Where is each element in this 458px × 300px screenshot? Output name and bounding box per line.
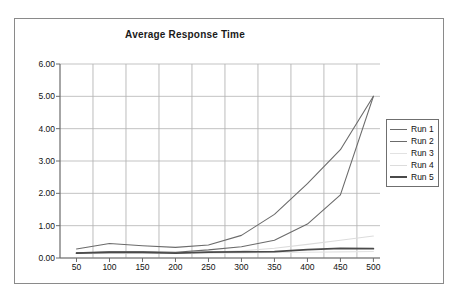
plot-area (60, 64, 380, 258)
legend-swatch-icon (390, 165, 407, 166)
x-axis-tick-label: 150 (127, 262, 157, 272)
legend-item[interactable]: Run 5 (390, 171, 434, 183)
y-axis-tick-label: 4.00 (25, 124, 55, 134)
y-axis-tick-label: 2.00 (25, 188, 55, 198)
x-axis-tick-label: 300 (226, 262, 256, 272)
legend-swatch-icon (390, 153, 407, 154)
legend-swatch-icon (390, 176, 407, 178)
y-axis-tick-label: 6.00 (25, 59, 55, 69)
legend-item-label: Run 3 (411, 147, 434, 159)
y-axis-tick-label: 0.00 (25, 253, 55, 263)
chart-title: Average Response Time (15, 29, 355, 40)
chart-legend: Run 1Run 2Run 3Run 4Run 5 (386, 119, 439, 187)
x-axis-tick-label: 100 (94, 262, 124, 272)
legend-item[interactable]: Run 3 (390, 147, 434, 159)
legend-swatch-icon (390, 141, 407, 142)
x-axis-tick-label: 250 (193, 262, 223, 272)
y-axis-tick-label: 1.00 (25, 221, 55, 231)
x-axis-tick-label: 450 (325, 262, 355, 272)
plot-svg (60, 64, 380, 258)
legend-item-label: Run 4 (411, 159, 434, 171)
legend-item-label: Run 2 (411, 135, 434, 147)
x-axis-tick-label: 200 (160, 262, 190, 272)
legend-item[interactable]: Run 2 (390, 135, 434, 147)
legend-item[interactable]: Run 1 (390, 123, 434, 135)
x-axis-tick-label: 350 (259, 262, 289, 272)
y-axis-tick-labels: 0.001.002.003.004.005.006.00 (22, 64, 55, 258)
y-axis-tick-label: 5.00 (25, 91, 55, 101)
legend-item-label: Run 5 (411, 171, 434, 183)
chart-frame: Average Response Time 0.001.002.003.004.… (14, 18, 444, 284)
legend-swatch-icon (390, 129, 407, 130)
x-axis-tick-label: 50 (61, 262, 91, 272)
legend-item[interactable]: Run 4 (390, 159, 434, 171)
x-axis-tick-label: 400 (292, 262, 322, 272)
y-axis-tick-label: 3.00 (25, 156, 55, 166)
x-axis-tick-labels: 50100150200250300350400450500 (60, 262, 380, 278)
x-axis-tick-label: 500 (358, 262, 388, 272)
legend-item-label: Run 1 (411, 123, 434, 135)
